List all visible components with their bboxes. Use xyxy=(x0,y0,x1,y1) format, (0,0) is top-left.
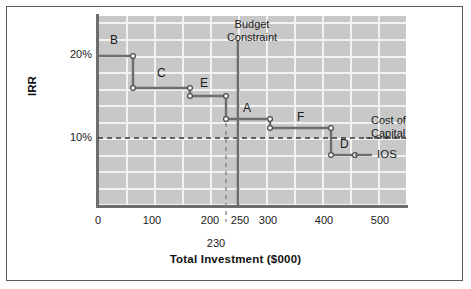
x-tick-label-400: 400 xyxy=(310,214,338,226)
gridline-h-10 xyxy=(98,138,406,140)
project-label-c: C xyxy=(157,66,166,80)
cost-of-capital-label: Cost of Capital xyxy=(371,114,406,139)
x-tick-label-0: 0 xyxy=(86,214,110,226)
project-label-a: A xyxy=(243,101,251,115)
gridline-v-200 xyxy=(210,16,212,206)
ios-series-label: IOS xyxy=(377,148,397,161)
gridline-h-14 xyxy=(98,105,406,107)
project-label-e: E xyxy=(200,76,208,90)
gridline-v-150 xyxy=(182,16,184,206)
investment-opportunity-schedule-chart: B C E A F D Budget Constraint Cost of Ca… xyxy=(0,0,471,289)
gridline-h-12 xyxy=(98,122,406,124)
x-axis-title: Total Investment ($000) xyxy=(0,253,471,265)
gridline-h-6 xyxy=(98,171,406,173)
budget-constraint-line1: Budget xyxy=(196,18,308,31)
y-tick-label-10: 10% xyxy=(56,131,92,143)
project-label-f: F xyxy=(297,110,304,124)
gridline-v-50 xyxy=(126,16,128,206)
project-label-d: D xyxy=(340,137,349,151)
x-axis-line xyxy=(96,205,408,208)
plot-area xyxy=(98,16,406,206)
cost-of-capital-line1: Cost of xyxy=(371,114,406,127)
y-axis-title: IRR xyxy=(26,76,38,96)
x-tick-label-250: 250 xyxy=(226,214,254,226)
gridline-h-20 xyxy=(98,56,406,58)
gridline-v-100 xyxy=(154,16,156,206)
gridline-v-250 xyxy=(238,16,240,206)
gridline-h-8 xyxy=(98,155,406,157)
gridline-v-400 xyxy=(322,16,324,206)
x-callout-230: 230 xyxy=(192,237,240,249)
gridline-h-18 xyxy=(98,72,406,74)
budget-constraint-line2: Constraint xyxy=(196,31,308,44)
cost-of-capital-line2: Capital xyxy=(371,127,406,140)
gridline-h-16 xyxy=(98,89,406,91)
gridline-v-450 xyxy=(350,16,352,206)
gridline-v-350 xyxy=(294,16,296,206)
budget-constraint-label: Budget Constraint xyxy=(196,18,308,43)
x-tick-label-500: 500 xyxy=(366,214,394,226)
x-tick-label-200: 200 xyxy=(196,214,224,226)
x-tick-label-300: 300 xyxy=(254,214,282,226)
project-label-b: B xyxy=(110,33,118,47)
y-axis-line xyxy=(96,14,99,208)
gridline-v-500 xyxy=(378,16,380,206)
gridline-h-4 xyxy=(98,188,406,190)
x-tick-label-100: 100 xyxy=(138,214,166,226)
gridline-v-300 xyxy=(266,16,268,206)
y-tick-label-20: 20% xyxy=(56,48,92,60)
